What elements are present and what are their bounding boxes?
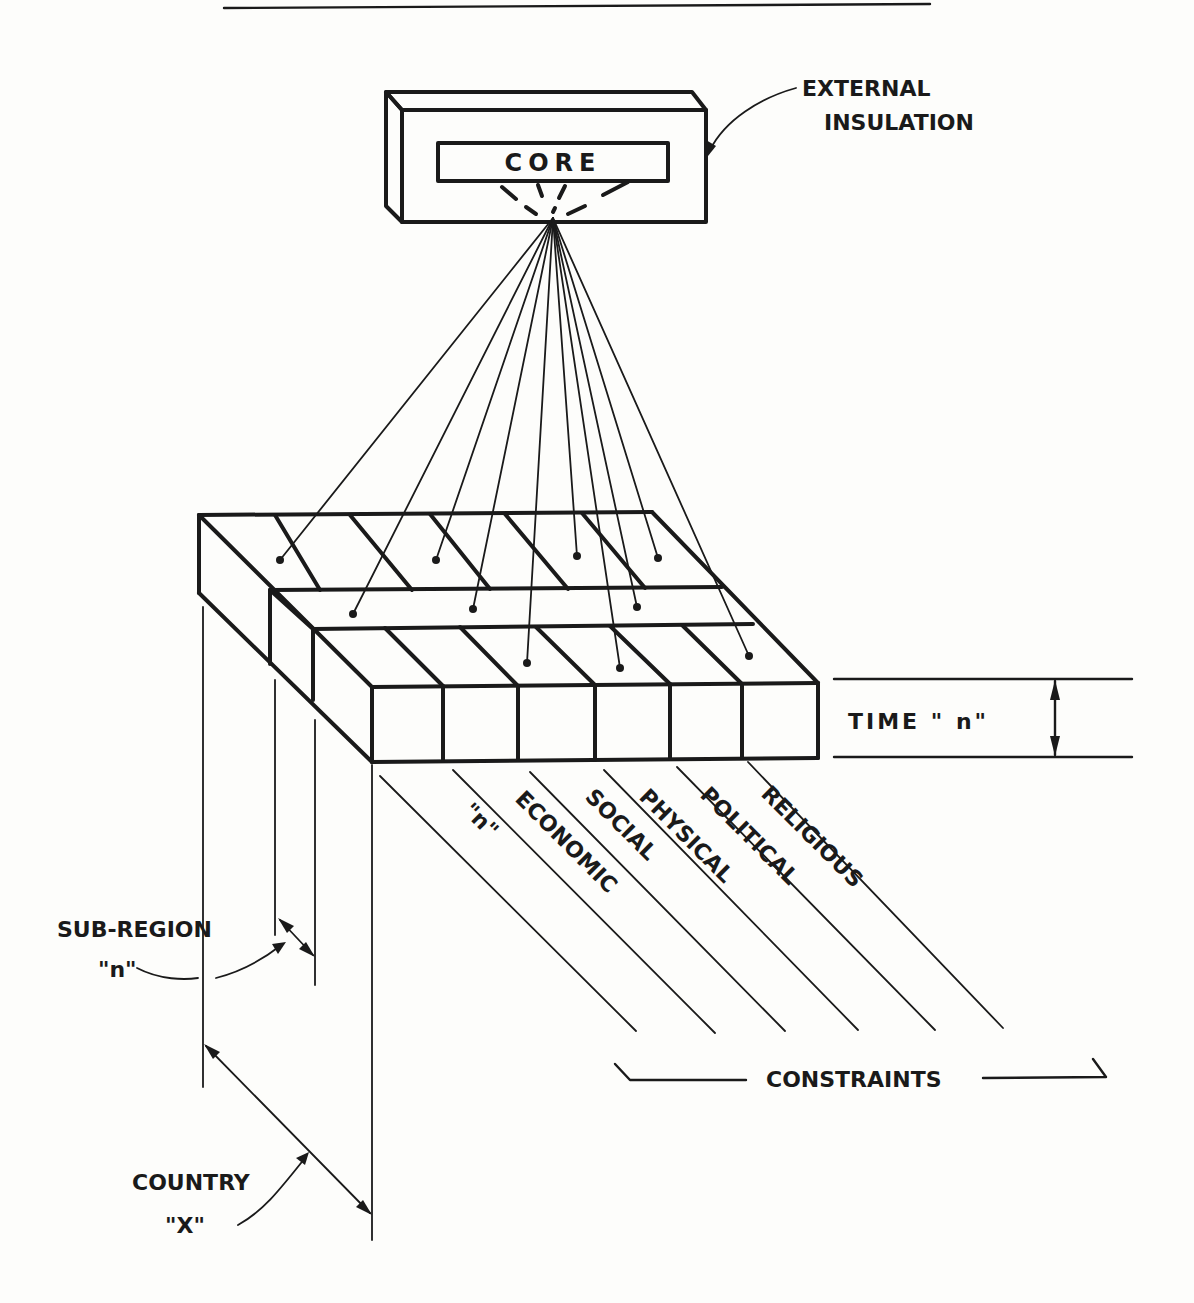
- core-constraint-diagram: CORE EXTERNAL INSULATION: [0, 0, 1194, 1303]
- core-label: CORE: [505, 149, 602, 177]
- node-dots: [276, 552, 753, 672]
- country-label: COUNTRY: [132, 1170, 251, 1195]
- subregion-leader: [137, 968, 198, 979]
- external-label: EXTERNAL: [802, 76, 930, 101]
- constraint-label-n: "n": [458, 798, 503, 843]
- insulation-label: INSULATION: [824, 110, 974, 135]
- top-rule: [224, 4, 930, 8]
- region-block: [199, 512, 818, 762]
- subregion-n-label: "n": [98, 957, 137, 982]
- subregion-arrow: [216, 946, 280, 978]
- country-x-label: "X": [165, 1213, 205, 1238]
- core-rays: [280, 218, 749, 668]
- core-radiation-dashes: [502, 182, 628, 214]
- insulation-arrow: [710, 88, 796, 150]
- constraint-labels: "n" ECONOMIC SOCIAL PHYSICAL POLITICAL R…: [458, 781, 868, 898]
- subregion-label: SUB-REGION: [57, 917, 212, 942]
- time-label: TIME " n": [848, 709, 989, 734]
- constraints-label: CONSTRAINTS: [766, 1067, 942, 1092]
